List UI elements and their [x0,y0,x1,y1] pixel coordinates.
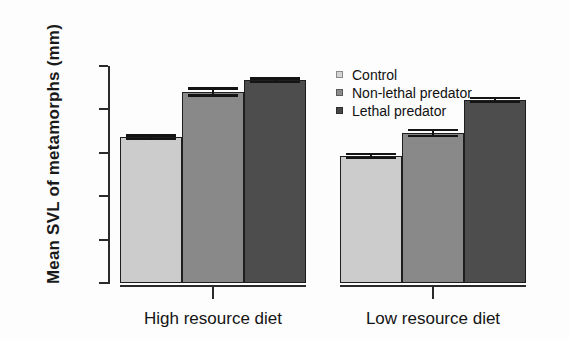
error-bar-cap [250,81,300,83]
error-bar [182,87,244,97]
error-bar-cap [346,153,396,155]
bar-control-high [120,137,182,283]
bar-lethal-predator-high [244,80,306,283]
group-bracket-tick [432,285,434,299]
bar-chart-figure: Mean SVL of metamorphs (mm) 201918171615… [0,0,569,341]
legend-item: Control [336,66,516,83]
error-bar-cap [188,87,238,89]
error-bar-cap [408,135,458,137]
y-axis-tick [99,195,108,197]
legend-swatch-icon [336,71,343,78]
bar-non-lethal-predator-high [182,92,244,283]
y-axis-tick [99,239,108,241]
error-bar [120,134,182,140]
error-bar [244,77,306,83]
legend-item: Lethal predator [336,102,516,119]
y-axis-tick [99,65,108,67]
group-label-low: Low resource diet [323,309,543,329]
legend-label: Non-lethal predator [352,85,472,101]
y-axis-tick [99,282,108,284]
bar-lethal-predator-low [464,100,526,283]
error-bar-cap [346,157,396,159]
error-bar-cap [250,77,300,79]
bar-control-low [340,156,402,283]
error-bar-cap [188,94,238,96]
error-bar [340,153,402,159]
error-bar [402,129,464,138]
y-axis-tick [99,108,108,110]
error-bar-cap [126,134,176,136]
y-axis-title: Mean SVL of metamorphs (mm) [44,4,64,304]
group-bracket-tick [212,285,214,299]
legend-label: Lethal predator [352,103,446,119]
error-bar-cap [126,138,176,140]
legend-swatch-icon [336,89,343,96]
legend-swatch-icon [336,107,343,114]
chart-legend: ControlNon-lethal predatorLethal predato… [336,66,516,120]
group-label-high: High resource diet [103,309,323,329]
legend-item: Non-lethal predator [336,84,516,101]
y-axis-tick [99,152,108,154]
legend-label: Control [352,67,397,83]
error-bar-cap [408,129,458,131]
bar-non-lethal-predator-low [402,133,464,283]
